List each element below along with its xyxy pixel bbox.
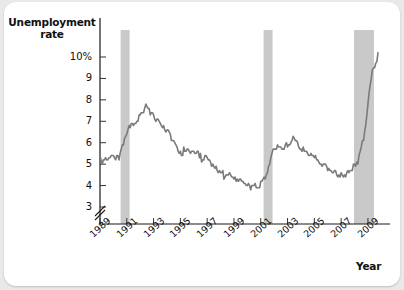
- chart-plot-area: Unemployment rate Year 10%9876543 198919…: [4, 2, 400, 286]
- axes-group: [100, 18, 390, 224]
- y-tick-label: 10%: [58, 52, 92, 62]
- x-axis-title: Year: [356, 260, 381, 272]
- recession-band-2001: [264, 30, 273, 224]
- figure-card: Unemployment rate Year 10%9876543 198919…: [4, 2, 400, 286]
- y-tick-label: 4: [58, 181, 92, 191]
- unemployment-rate-line: [100, 53, 378, 190]
- recession-bands-group: [121, 30, 374, 224]
- recession-band-2007: [354, 30, 374, 224]
- y-axis-title: Unemployment rate: [6, 16, 98, 40]
- y-tick-label: 7: [58, 116, 92, 126]
- y-tick-label: 5: [58, 159, 92, 169]
- tick-marks-group: [100, 57, 368, 224]
- y-axis-title-line1: Unemployment: [8, 16, 95, 28]
- y-tick-label: 9: [58, 73, 92, 83]
- y-tick-label: 6: [58, 138, 92, 148]
- y-tick-label: 8: [58, 95, 92, 105]
- y-axis-title-line2: rate: [6, 28, 98, 40]
- y-tick-label: 3: [58, 202, 92, 212]
